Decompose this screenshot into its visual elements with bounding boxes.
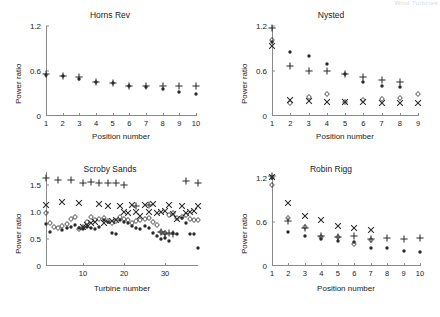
data-point-cross [284, 199, 292, 207]
x-tick-label: 1 [270, 266, 274, 278]
data-point-diamond [318, 233, 325, 240]
y-tick-mark [46, 26, 49, 27]
data-point-cross [112, 216, 120, 224]
x-tick-mark [305, 263, 306, 266]
x-tick-label: 2 [286, 266, 290, 278]
data-point-diamond [342, 99, 349, 106]
data-point-plus [157, 228, 166, 237]
data-point-dot [76, 226, 81, 231]
y-tick-label: 1.5 [30, 181, 46, 190]
data-point-plus [416, 233, 425, 242]
data-point-cross [91, 218, 99, 226]
data-point-diamond [170, 210, 177, 217]
x-tick-mark [387, 263, 388, 266]
data-point-plus [399, 234, 408, 243]
x-axis-label: Position number [272, 132, 418, 141]
data-point-dot [48, 229, 53, 234]
y-tick-mark [272, 222, 275, 223]
data-point-diamond [186, 215, 193, 222]
y-tick-mark [46, 239, 49, 240]
data-point-diamond [125, 216, 132, 223]
x-tick-mark [196, 113, 197, 116]
data-point-plus [78, 178, 87, 187]
data-point-diamond [287, 99, 294, 106]
x-tick-label: 10 [79, 266, 87, 278]
y-axis-label: Power ratio [14, 214, 23, 254]
data-point-plus [95, 178, 104, 187]
data-point-diamond [166, 211, 173, 218]
data-point-diamond [285, 214, 292, 221]
data-point-diamond [141, 215, 148, 222]
x-tick-mark [345, 113, 346, 116]
plot-area-scroby-sands: 00.51.01.5102030 [46, 172, 198, 266]
y-tick-label: 0.6 [256, 218, 272, 227]
x-tick-label: 6 [361, 116, 365, 128]
data-point-cross [186, 208, 194, 216]
data-point-plus [333, 232, 342, 241]
data-point-dot [179, 215, 184, 220]
panel-nysted: Nysted 00.61.2123456789 Power ratio Posi… [222, 10, 440, 157]
data-point-cross [145, 208, 153, 216]
data-point-dot [122, 219, 127, 224]
data-point-diamond [360, 96, 367, 103]
data-point-diamond [67, 215, 74, 222]
x-tick-mark [46, 113, 47, 116]
x-tick-label: 2 [61, 116, 65, 128]
x-tick-label: 3 [77, 116, 81, 128]
data-point-diamond [96, 215, 103, 222]
data-point-diamond [79, 224, 86, 231]
x-tick-mark [113, 113, 114, 116]
x-tick-mark [327, 113, 328, 116]
y-tick-label: 0.6 [256, 67, 272, 76]
panel-title: Nysted [222, 10, 440, 20]
x-tick-label: 2 [288, 116, 292, 128]
data-point-cross [104, 202, 112, 210]
page-header: Wind Turbines [300, 0, 438, 9]
x-tick-label: 9 [416, 116, 420, 128]
data-point-cross [100, 219, 108, 227]
data-point-diamond [71, 213, 78, 220]
data-point-plus [92, 77, 101, 86]
data-point-dot [138, 227, 143, 232]
data-point-plus [75, 72, 84, 81]
x-tick-label: 7 [144, 116, 148, 128]
data-point-dot [194, 91, 199, 96]
data-point-diamond [158, 228, 165, 235]
data-point-dot [60, 228, 65, 233]
x-tick-mark [371, 263, 372, 266]
x-tick-label: 4 [319, 266, 323, 278]
x-tick-mark [382, 113, 383, 116]
data-point-cross [182, 209, 190, 217]
data-point-cross [116, 202, 124, 210]
data-point-cross [414, 99, 422, 107]
data-point-plus [66, 175, 75, 184]
data-point-cross [157, 208, 165, 216]
data-point-dot [113, 231, 118, 236]
data-point-plus [304, 67, 313, 76]
data-point-dot [105, 219, 110, 224]
data-point-dot [324, 61, 329, 66]
panel-horns-rev: Horns Rev 00.61.212345678910 Power ratio… [0, 10, 220, 157]
data-point-cross [95, 200, 103, 208]
data-point-cross [194, 202, 202, 210]
x-tick-label: 9 [401, 266, 405, 278]
data-point-dot [134, 226, 139, 231]
data-point-dot [187, 232, 192, 237]
x-tick-label: 8 [398, 116, 402, 128]
x-tick-label: 3 [306, 116, 310, 128]
data-point-cross [341, 98, 349, 106]
data-point-plus [175, 82, 184, 91]
x-tick-label: 5 [343, 116, 347, 128]
data-point-plus [359, 73, 368, 82]
data-point-plus [144, 200, 153, 209]
data-point-cross [108, 217, 116, 225]
x-tick-label: 6 [352, 266, 356, 278]
data-point-dot [60, 74, 65, 79]
x-tick-label: 7 [379, 116, 383, 128]
x-tick-label: 10 [416, 266, 424, 278]
data-point-cross [173, 215, 181, 223]
data-point-dot [127, 84, 132, 89]
data-point-diamond [182, 211, 189, 218]
data-point-dot [146, 226, 151, 231]
y-tick-label: 0 [37, 262, 46, 271]
